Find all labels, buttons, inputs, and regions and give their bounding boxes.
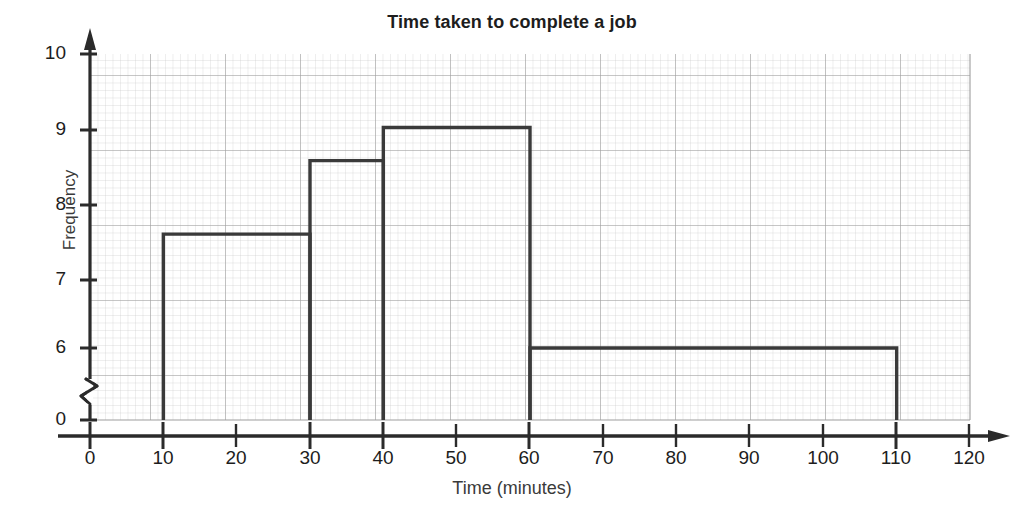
plot-canvas <box>0 0 1024 518</box>
histogram-figure: Time taken to complete a job Frequency T… <box>0 0 1024 518</box>
y-tick-label-9: 9 <box>20 118 66 140</box>
x-tick-label-110: 110 <box>866 447 926 469</box>
x-tick-label-70: 70 <box>573 447 633 469</box>
x-tick-label-40: 40 <box>353 447 413 469</box>
x-tick-label-30: 30 <box>280 447 340 469</box>
x-tick-label-60: 60 <box>499 447 559 469</box>
x-tick-label-20: 20 <box>206 447 266 469</box>
y-tick-label-7: 7 <box>20 268 66 290</box>
y-tick-label-0: 0 <box>20 408 66 430</box>
x-tick-label-0: 0 <box>60 447 120 469</box>
x-tick-label-120: 120 <box>939 447 999 469</box>
y-tick-label-6: 6 <box>20 336 66 358</box>
y-tick-label-8: 8 <box>20 193 66 215</box>
x-axis <box>58 422 1010 449</box>
x-tick-label-80: 80 <box>646 447 706 469</box>
y-tick-label-10: 10 <box>20 42 66 64</box>
x-tick-label-90: 90 <box>719 447 779 469</box>
x-tick-label-100: 100 <box>793 447 853 469</box>
x-tick-label-50: 50 <box>426 447 486 469</box>
x-tick-label-10: 10 <box>133 447 193 469</box>
